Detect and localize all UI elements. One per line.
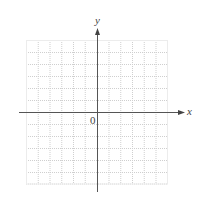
origin-label: 0 bbox=[90, 115, 96, 126]
x-axis-arrow-icon bbox=[178, 110, 185, 115]
x-axis-label: x bbox=[187, 106, 192, 117]
coordinate-plane bbox=[0, 0, 199, 197]
y-axis-label: y bbox=[95, 15, 100, 26]
y-axis-arrow-icon bbox=[95, 28, 100, 35]
